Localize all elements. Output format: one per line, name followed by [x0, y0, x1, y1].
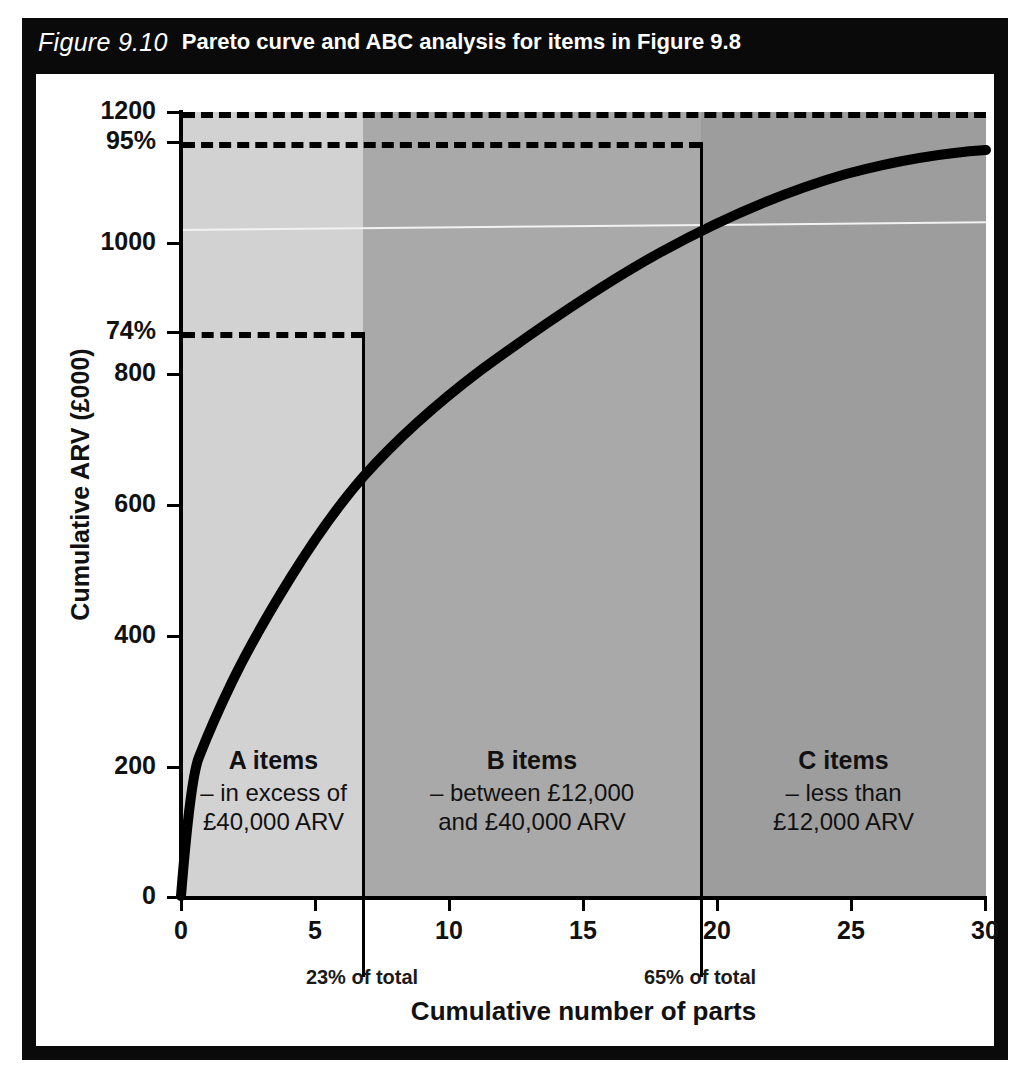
y-tick-label-95pct: 95% — [36, 126, 156, 155]
y-tick-1200 — [167, 111, 183, 114]
y-tick-74pct — [167, 331, 183, 334]
figure-frame: Figure 9.10 Pareto curve and ABC analysi… — [22, 18, 1008, 1060]
region-b-line2: and £40,000 ARV — [392, 807, 672, 836]
region-label-b: B items – between £12,000 and £40,000 AR… — [392, 746, 672, 837]
region-label-a: A items – in excess of £40,000 ARV — [186, 746, 361, 837]
y-tick-200 — [167, 766, 183, 769]
x-tick-label-0: 0 — [141, 916, 221, 945]
region-c-line2: £12,000 ARV — [716, 807, 971, 836]
x-tick-20 — [716, 896, 719, 911]
figure-caption: Pareto curve and ABC analysis for items … — [182, 29, 741, 55]
figure-page: Figure 9.10 Pareto curve and ABC analysi… — [0, 0, 1030, 1081]
y-tick-800 — [167, 373, 183, 376]
x-tick-25 — [850, 896, 853, 911]
x-tick-label-25: 25 — [811, 916, 891, 945]
y-tick-label-1000: 1000 — [36, 227, 156, 256]
y-tick-label-400: 400 — [36, 620, 156, 649]
x-tick-label-10: 10 — [409, 916, 489, 945]
x-tick-label-20: 20 — [677, 916, 757, 945]
y-tick-label-800: 800 — [36, 358, 156, 387]
x-tick-label-5: 5 — [275, 916, 355, 945]
y-tick-400 — [167, 635, 183, 638]
x-tick-0 — [180, 896, 183, 911]
y-tick-label-600: 600 — [36, 489, 156, 518]
region-a-line1: – in excess of — [186, 778, 361, 807]
region-label-c: C items – less than £12,000 ARV — [716, 746, 971, 837]
x-tick-10 — [448, 896, 451, 911]
y-tick-95pct — [167, 141, 183, 144]
y-axis-title: Cumulative ARV (£000) — [66, 275, 95, 695]
region-b-title: B items — [392, 746, 672, 775]
chart-plot-area: 1200 95% 1000 74% 800 600 400 200 0 0 — [36, 74, 994, 1046]
y-tick-label-74pct: 74% — [36, 316, 156, 345]
y-tick-1000 — [167, 242, 183, 245]
figure-number: Figure 9.10 — [38, 28, 168, 57]
region-c-line1: – less than — [716, 778, 971, 807]
figure-body: 1200 95% 1000 74% 800 600 400 200 0 0 — [36, 74, 994, 1046]
region-b-line1: – between £12,000 — [392, 778, 672, 807]
region-a-title: A items — [186, 746, 361, 775]
x-tick-5 — [314, 896, 317, 911]
x-tick-label-30: 30 — [945, 916, 1025, 945]
x-tick-15 — [582, 896, 585, 911]
x-axis-title: Cumulative number of parts — [181, 996, 986, 1027]
annotation-65pct-of-total: 65% of total — [590, 966, 810, 989]
annotation-23pct-of-total: 23% of total — [252, 966, 472, 989]
y-tick-label-1200: 1200 — [36, 96, 156, 125]
y-tick-label-0: 0 — [36, 881, 156, 910]
x-tick-label-15: 15 — [543, 916, 623, 945]
x-tick-30 — [984, 896, 987, 911]
region-a-line2: £40,000 ARV — [186, 807, 361, 836]
figure-title-bar: Figure 9.10 Pareto curve and ABC analysi… — [22, 18, 1008, 66]
y-tick-label-200: 200 — [36, 751, 156, 780]
region-c-title: C items — [716, 746, 971, 775]
y-tick-600 — [167, 504, 183, 507]
